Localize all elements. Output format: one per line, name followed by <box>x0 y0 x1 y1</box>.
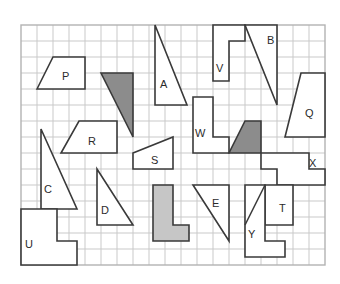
shape-b-label: B <box>267 34 274 46</box>
shape-x-label: X <box>309 157 317 169</box>
shape-c-label: C <box>44 183 52 195</box>
shape-p-label: P <box>62 70 69 82</box>
shape-p <box>37 57 85 89</box>
shape-q-label: Q <box>305 107 314 119</box>
shape-y-label: Y <box>248 228 256 240</box>
shape-t-label: T <box>279 202 286 214</box>
shape-u-label: U <box>25 238 33 250</box>
shape-s-label: S <box>151 154 158 166</box>
shape-r-label: R <box>88 135 96 147</box>
shape-gray-l <box>153 185 189 241</box>
shape-d <box>97 169 133 225</box>
shape-a-label: A <box>160 78 168 90</box>
shapes-layer <box>21 25 325 265</box>
shape-w-label: W <box>195 127 206 139</box>
shape-e-label: E <box>212 197 219 209</box>
shapes-worksheet: PAVBQRWSXCDETYU <box>0 0 340 284</box>
shape-a <box>155 25 187 105</box>
shape-d-label: D <box>101 204 109 216</box>
shape-v-label: V <box>216 62 224 74</box>
worksheet-canvas: PAVBQRWSXCDETYU <box>0 0 340 284</box>
